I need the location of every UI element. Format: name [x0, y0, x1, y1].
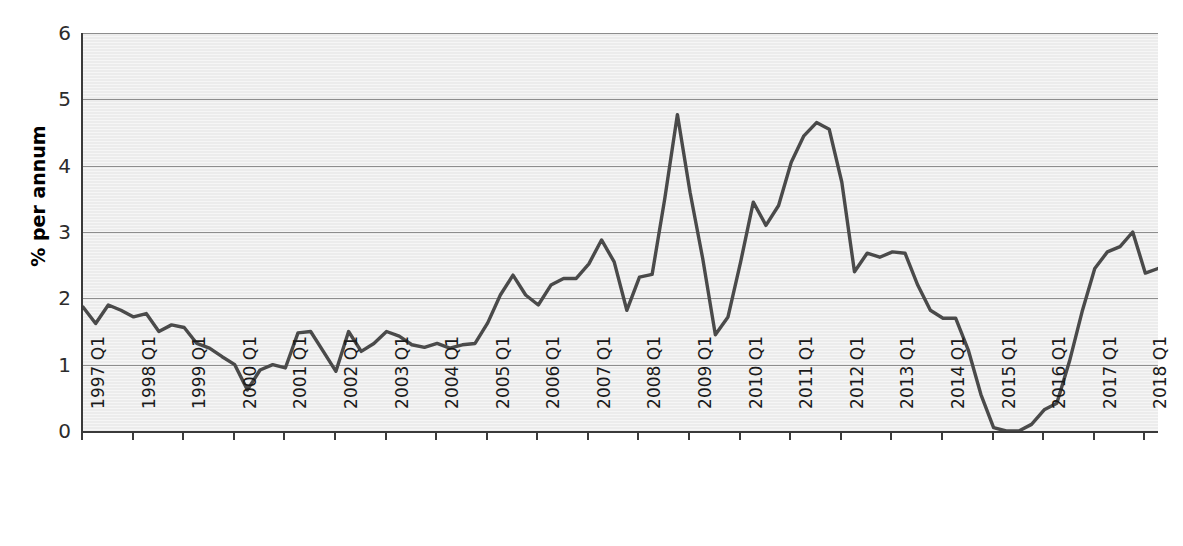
y-axis-tick-0: 0	[45, 421, 71, 441]
x-axis-tickmark-2010-Q1	[739, 431, 741, 440]
x-axis-tickmark-1997-Q1	[81, 431, 83, 440]
x-axis-tickmark-2000-Q1	[233, 431, 235, 440]
y-axis-tick-1: 1	[45, 355, 71, 375]
y-axis-tick-5: 5	[45, 89, 71, 109]
x-axis-tickmark-2016-Q1	[1042, 431, 1044, 440]
x-axis-tickmark-2015-Q1	[992, 431, 994, 440]
x-axis-tickmark-2004-Q1	[435, 431, 437, 440]
x-axis-tickmark-2011-Q1	[789, 431, 791, 440]
x-axis-tick-2005-Q1: 2005 Q1	[493, 336, 513, 446]
y-axis-tick-3: 3	[45, 222, 71, 242]
x-axis-tick-2017-Q1: 2017 Q1	[1100, 336, 1120, 446]
x-axis-tick-2010-Q1: 2010 Q1	[746, 336, 766, 446]
x-axis-tick-2016-Q1: 2016 Q1	[1049, 336, 1069, 446]
x-axis-tickmark-2006-Q1	[536, 431, 538, 440]
x-axis-tickmark-1999-Q1	[182, 431, 184, 440]
x-axis-tickmark-2001-Q1	[283, 431, 285, 440]
x-axis-tickmark-2017-Q1	[1093, 431, 1095, 440]
x-axis-tick-2001-Q1: 2001 Q1	[290, 336, 310, 446]
x-axis-tick-2014-Q1: 2014 Q1	[948, 336, 968, 446]
x-axis-tick-2006-Q1: 2006 Q1	[543, 336, 563, 446]
x-axis-tick-2018-Q1: 2018 Q1	[1150, 336, 1170, 446]
x-axis-tickmark-2002-Q1	[334, 431, 336, 440]
x-axis-tickmark-2009-Q1	[688, 431, 690, 440]
x-axis-tick-2004-Q1: 2004 Q1	[442, 336, 462, 446]
x-axis-tickmark-2014-Q1	[941, 431, 943, 440]
y-axis-tick-2: 2	[45, 288, 71, 308]
y-axis-title: % per annum	[27, 86, 49, 306]
x-axis-tickmark-2005-Q1	[486, 431, 488, 440]
x-axis-tick-2011-Q1: 2011 Q1	[796, 336, 816, 446]
x-axis-tickmark-2007-Q1	[587, 431, 589, 440]
x-axis-tick-1998-Q1: 1998 Q1	[139, 336, 159, 446]
x-axis-tick-2003-Q1: 2003 Q1	[392, 336, 412, 446]
y-axis-tick-6: 6	[45, 23, 71, 43]
y-axis-tick-4: 4	[45, 156, 71, 176]
x-axis-tick-2008-Q1: 2008 Q1	[644, 336, 664, 446]
x-axis-tick-2002-Q1: 2002 Q1	[341, 336, 361, 446]
x-axis-tickmark-2018-Q1	[1143, 431, 1145, 440]
x-axis-tickmark-2013-Q1	[890, 431, 892, 440]
x-axis-tick-2000-Q1: 2000 Q1	[240, 336, 260, 446]
x-axis-tickmark-2003-Q1	[385, 431, 387, 440]
x-axis-tickmark-2012-Q1	[840, 431, 842, 440]
x-axis-tickmark-1998-Q1	[132, 431, 134, 440]
chart-root: % per annum 0123456 1997 Q11998 Q11999 Q…	[0, 0, 1183, 546]
x-axis-tickmark-2008-Q1	[637, 431, 639, 440]
x-axis-tick-2007-Q1: 2007 Q1	[594, 336, 614, 446]
x-axis-tick-1997-Q1: 1997 Q1	[88, 336, 108, 446]
x-axis-tick-2013-Q1: 2013 Q1	[897, 336, 917, 446]
x-axis-tick-1999-Q1: 1999 Q1	[189, 336, 209, 446]
x-axis-tick-2009-Q1: 2009 Q1	[695, 336, 715, 446]
x-axis-tick-2012-Q1: 2012 Q1	[847, 336, 867, 446]
x-axis-tick-2015-Q1: 2015 Q1	[999, 336, 1019, 446]
